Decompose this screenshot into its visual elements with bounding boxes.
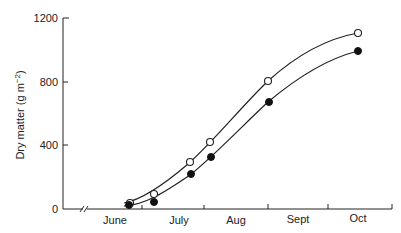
filled-circle-marker xyxy=(208,154,215,161)
filled-circle-marker xyxy=(266,99,273,106)
svg-text:Dry matter (g m−2): Dry matter (g m−2) xyxy=(13,70,26,159)
open-circle-marker xyxy=(355,30,362,37)
filled-circle-marker xyxy=(188,171,195,178)
y-tick-400: 400 xyxy=(40,139,58,151)
open-circle-marker xyxy=(265,78,272,85)
filled-circle-marker xyxy=(355,48,362,55)
filled-series-curve xyxy=(124,51,358,206)
open-circle-marker xyxy=(151,191,158,198)
open-series-curve xyxy=(124,33,358,203)
x-tick-june: June xyxy=(103,214,127,226)
x-tick-july: July xyxy=(169,214,189,226)
open-circle-marker xyxy=(207,139,214,146)
x-tick-sept: Sept xyxy=(287,213,310,225)
y-tick-800: 800 xyxy=(40,76,58,88)
open-circle-marker xyxy=(187,159,194,166)
y-tick-1200: 1200 xyxy=(34,12,58,24)
x-axis xyxy=(63,204,392,212)
filled-circle-marker xyxy=(126,202,133,209)
dry-matter-chart: 1200 800 400 0 Dry matter (g m−2) June J… xyxy=(0,0,401,233)
y-tick-0: 0 xyxy=(52,203,58,215)
x-tick-oct: Oct xyxy=(349,212,366,224)
y-axis-label: Dry matter (g m−2) xyxy=(13,70,26,159)
x-tick-aug: Aug xyxy=(226,214,246,226)
y-axis xyxy=(63,18,69,209)
open-series-markers xyxy=(127,30,362,207)
filled-circle-marker xyxy=(151,199,158,206)
filled-series-markers xyxy=(126,48,362,209)
